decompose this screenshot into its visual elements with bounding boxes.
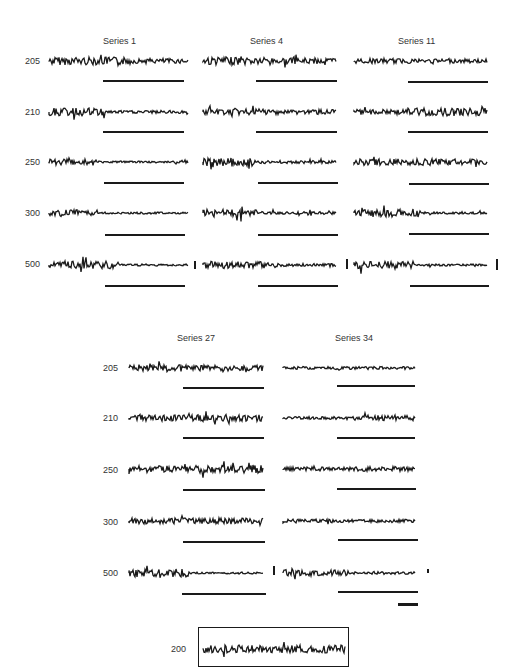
signal-trace xyxy=(283,569,415,579)
signal-trace xyxy=(49,210,188,217)
trace-frame xyxy=(198,627,349,667)
signal-trace xyxy=(129,361,263,372)
scale-bar xyxy=(103,80,184,82)
scale-bar xyxy=(256,80,337,82)
scale-bar xyxy=(338,539,418,541)
signal-trace xyxy=(203,158,336,169)
scale-bar xyxy=(337,488,416,490)
signal-trace xyxy=(203,207,336,222)
signal-trace xyxy=(49,108,188,120)
signal-trace xyxy=(283,466,415,471)
scale-bar xyxy=(183,489,265,491)
signal-trace xyxy=(49,257,188,272)
signal-trace xyxy=(354,261,487,273)
signal-trace xyxy=(129,461,263,477)
scale-bar xyxy=(408,131,488,133)
scale-bar xyxy=(183,387,264,389)
signal-trace xyxy=(283,367,415,371)
signal-trace xyxy=(354,157,487,167)
signal-trace xyxy=(203,106,336,117)
calibration-tick xyxy=(273,566,275,575)
calibration-tick xyxy=(346,259,348,269)
scale-bar xyxy=(410,285,489,287)
scale-bar xyxy=(183,541,265,543)
scale-bar xyxy=(103,131,184,133)
calibration-tick xyxy=(427,569,429,573)
signal-trace xyxy=(203,55,336,68)
scale-bar xyxy=(409,183,489,185)
scale-bar xyxy=(104,182,184,184)
scale-bar xyxy=(409,233,489,235)
scale-bar xyxy=(105,285,185,287)
scale-bar xyxy=(408,81,488,83)
scale-bar xyxy=(258,182,338,184)
calibration-tick xyxy=(194,261,196,269)
signal-trace xyxy=(203,261,336,268)
scale-bar xyxy=(183,437,264,439)
signal-trace xyxy=(354,107,487,116)
scale-bar xyxy=(256,131,337,133)
signal-trace xyxy=(283,519,415,524)
scale-bar xyxy=(182,593,266,595)
scale-bar xyxy=(258,285,338,287)
scale-bar xyxy=(337,385,415,387)
scale-bar xyxy=(105,234,185,236)
scale-bar xyxy=(337,437,415,439)
scale-bar xyxy=(338,591,418,593)
signal-trace xyxy=(283,413,415,421)
signal-trace xyxy=(354,206,487,218)
calibration-tick xyxy=(496,259,498,270)
signal-trace xyxy=(49,158,188,166)
scale-bar xyxy=(258,234,338,236)
signal-trace xyxy=(129,411,263,424)
time-scale-bar xyxy=(398,603,418,606)
signal-trace xyxy=(129,516,263,525)
signal-trace xyxy=(49,55,188,66)
signal-trace xyxy=(354,59,487,64)
signal-trace xyxy=(129,566,263,578)
